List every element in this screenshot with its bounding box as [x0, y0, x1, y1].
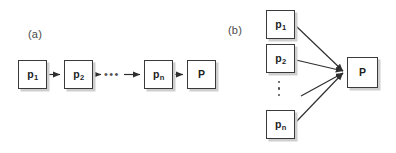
node-b-pn-label: pn [275, 119, 286, 130]
edge-b-p2-to-p [296, 60, 343, 71]
node-a-pn-label: pn [153, 69, 164, 80]
node-b-p: P [347, 57, 378, 88]
figure-root: (a) p1 p2 ••• pn P (b) p1 p2 pn P [0, 0, 396, 153]
node-b-pn: pn [266, 110, 295, 139]
ellipsis-dot [278, 94, 280, 96]
node-a-p: P [187, 60, 216, 89]
edge-b-pn-to-p [296, 73, 343, 122]
ellipsis-dot [278, 81, 280, 83]
node-a-pn: pn [144, 60, 173, 89]
node-b-p-label: P [359, 67, 366, 78]
edge-b-ellipsis-to-p [301, 73, 343, 96]
panel-b-label: (b) [228, 24, 242, 36]
node-b-p1-label: p1 [275, 19, 286, 30]
panel-b-edges [296, 26, 343, 122]
node-b-p2: p2 [266, 44, 295, 73]
edge-b-p1-to-p [296, 26, 343, 71]
node-a-p-label: P [198, 69, 205, 80]
node-a-p1-label: p1 [27, 69, 38, 80]
panel-a-label: (a) [28, 28, 42, 40]
panel-b-vertical-ellipsis [277, 81, 281, 96]
ellipsis-dot [278, 87, 280, 89]
node-b-p2-label: p2 [275, 53, 286, 64]
node-b-p1: p1 [266, 10, 295, 39]
node-a-p2-label: p2 [73, 69, 84, 80]
node-a-p1: p1 [18, 60, 47, 89]
panel-a-horizontal-ellipsis: ••• [104, 69, 120, 80]
node-a-p2: p2 [64, 60, 93, 89]
